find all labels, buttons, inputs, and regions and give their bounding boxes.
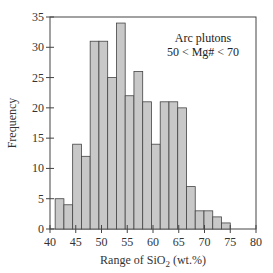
histogram-bar [160, 102, 169, 229]
y-axis-ticks: 05101520253035 [32, 10, 54, 236]
annotation-line-1: Arc plutons [175, 31, 232, 45]
x-tick-label: 65 [173, 235, 185, 249]
histogram-bar [108, 78, 117, 229]
x-tick-label: 70 [199, 235, 211, 249]
histogram-bar [64, 205, 73, 229]
x-tick-label: 55 [121, 235, 133, 249]
annotation: Arc plutons 50 < Mg# < 70 [167, 31, 239, 59]
y-tick-label: 20 [32, 101, 44, 115]
histogram-bar [178, 108, 187, 229]
histogram-bar [204, 211, 213, 229]
histogram-bar [169, 102, 178, 229]
histogram-bar [195, 211, 204, 229]
histogram-bar [151, 144, 160, 229]
y-tick-label: 30 [32, 40, 44, 54]
histogram-bar [143, 102, 152, 229]
y-tick-label: 25 [32, 71, 44, 85]
histogram-bar [73, 144, 82, 229]
x-tick-label: 45 [70, 235, 82, 249]
histogram-bar [221, 223, 230, 229]
y-tick-label: 10 [32, 161, 44, 175]
x-tick-label: 60 [147, 235, 159, 249]
histogram-bar [186, 187, 195, 229]
histogram-bar [55, 199, 64, 229]
y-axis-label: Frequency [5, 98, 19, 149]
y-tick-label: 35 [32, 10, 44, 24]
x-tick-label: 50 [96, 235, 108, 249]
x-tick-label: 40 [44, 235, 56, 249]
histogram-bar [81, 156, 90, 229]
histogram-bar [125, 96, 134, 229]
histogram-bar [99, 41, 108, 229]
x-tick-label: 80 [250, 235, 262, 249]
histogram-chart: 05101520253035 404550556065707580 Arc pl… [0, 0, 273, 273]
histogram-bar [90, 41, 99, 229]
x-axis-label: Range of SiO2 (wt.%) [100, 253, 206, 269]
y-tick-label: 0 [38, 222, 44, 236]
annotation-line-2: 50 < Mg# < 70 [167, 45, 239, 59]
histogram-bar [116, 23, 125, 229]
histogram-bar [213, 217, 222, 229]
y-tick-label: 15 [32, 131, 44, 145]
x-tick-label: 75 [224, 235, 236, 249]
y-tick-label: 5 [38, 192, 44, 206]
histogram-bar [134, 72, 143, 229]
